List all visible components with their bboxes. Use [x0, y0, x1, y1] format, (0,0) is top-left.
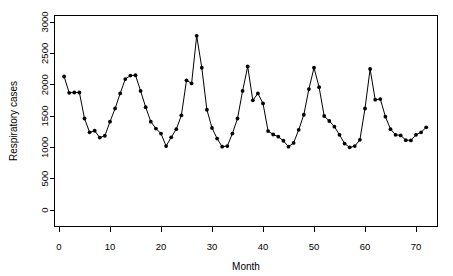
- data-point-month-5: [83, 117, 87, 121]
- data-point-month-40: [261, 102, 265, 106]
- data-point-month-25: [185, 78, 189, 82]
- data-point-month-62: [373, 98, 377, 102]
- data-point-month-3: [72, 91, 76, 95]
- data-point-month-69: [409, 139, 413, 143]
- data-point-month-49: [307, 87, 311, 91]
- y-tick-label-1500: 1500: [39, 105, 50, 126]
- data-point-month-41: [266, 129, 270, 133]
- data-point-month-54: [333, 125, 337, 129]
- chart-plot-area: 050010001500200025003000010203040506070M…: [0, 0, 453, 276]
- data-point-month-2: [67, 91, 71, 95]
- data-point-month-1: [62, 75, 66, 79]
- data-point-month-50: [312, 66, 316, 70]
- data-point-month-34: [231, 132, 235, 136]
- data-point-month-21: [164, 144, 168, 148]
- data-point-month-65: [389, 127, 393, 131]
- data-point-month-45: [287, 145, 291, 149]
- series-markers: [62, 34, 428, 149]
- data-point-month-64: [384, 115, 388, 119]
- data-point-month-66: [394, 133, 398, 137]
- y-tick-label-2000: 2000: [39, 74, 50, 95]
- data-point-month-17: [144, 105, 148, 109]
- data-point-month-22: [169, 135, 173, 139]
- series-line-respiratory-cases: [64, 36, 426, 148]
- data-point-month-37: [246, 65, 250, 69]
- data-point-month-63: [378, 97, 382, 101]
- data-point-month-46: [292, 141, 296, 145]
- y-tick-label-0: 0: [39, 207, 50, 212]
- data-point-month-10: [108, 120, 112, 124]
- data-point-month-71: [419, 130, 423, 134]
- data-point-month-61: [368, 67, 372, 71]
- x-tick-label-30: 30: [207, 241, 218, 252]
- data-point-month-7: [93, 129, 97, 133]
- data-point-month-57: [348, 145, 352, 149]
- data-point-month-13: [123, 77, 127, 81]
- data-point-month-68: [404, 138, 408, 142]
- data-point-month-14: [129, 74, 133, 78]
- data-point-month-48: [302, 113, 306, 117]
- x-axis-title: Month: [232, 261, 260, 272]
- data-point-month-23: [174, 127, 178, 131]
- x-tick-label-10: 10: [105, 241, 116, 252]
- x-tick-label-0: 0: [56, 241, 61, 252]
- data-point-month-44: [282, 139, 286, 143]
- x-tick-label-20: 20: [156, 241, 167, 252]
- data-point-month-29: [205, 108, 209, 112]
- data-point-month-58: [353, 144, 357, 148]
- data-point-month-60: [363, 107, 367, 111]
- data-point-month-43: [276, 135, 280, 139]
- data-point-month-19: [154, 127, 158, 131]
- data-point-month-51: [317, 85, 321, 89]
- x-tick-label-40: 40: [258, 241, 269, 252]
- plot-box-frame: [55, 16, 438, 227]
- data-point-month-47: [297, 128, 301, 132]
- respiratory-cases-chart: 050010001500200025003000010203040506070M…: [0, 0, 453, 276]
- data-point-month-26: [190, 82, 194, 86]
- data-point-month-56: [343, 142, 347, 146]
- data-point-month-53: [327, 119, 331, 123]
- data-point-month-52: [322, 114, 326, 118]
- y-tick-label-1000: 1000: [39, 137, 50, 158]
- data-point-month-11: [113, 107, 117, 111]
- data-point-month-31: [215, 137, 219, 141]
- data-point-month-55: [338, 133, 342, 137]
- y-tick-label-500: 500: [39, 171, 50, 187]
- data-point-month-67: [399, 134, 403, 138]
- data-point-month-59: [358, 138, 362, 142]
- data-point-month-27: [195, 34, 199, 38]
- data-point-month-28: [200, 66, 204, 70]
- data-point-month-35: [236, 117, 240, 121]
- data-point-month-42: [271, 133, 275, 137]
- x-tick-label-70: 70: [411, 241, 422, 252]
- data-point-month-38: [251, 98, 255, 102]
- data-point-month-8: [98, 136, 102, 140]
- y-tick-label-2500: 2500: [39, 43, 50, 64]
- data-point-month-15: [134, 73, 138, 77]
- x-tick-label-60: 60: [360, 241, 371, 252]
- data-point-month-12: [118, 92, 122, 96]
- data-point-month-30: [210, 126, 214, 130]
- data-point-month-20: [159, 132, 163, 136]
- data-point-month-9: [103, 134, 107, 138]
- data-point-month-33: [225, 144, 229, 148]
- data-point-month-39: [256, 92, 260, 96]
- data-point-month-18: [149, 120, 153, 124]
- data-point-month-4: [78, 91, 82, 95]
- data-point-month-24: [180, 113, 184, 117]
- data-point-month-36: [241, 89, 245, 93]
- data-point-month-70: [414, 133, 418, 137]
- y-tick-label-3000: 3000: [39, 11, 50, 32]
- x-tick-label-50: 50: [309, 241, 320, 252]
- data-point-month-32: [220, 145, 224, 149]
- data-point-month-72: [424, 125, 428, 129]
- y-axis-title: Respiratory cases: [8, 81, 19, 161]
- data-point-month-16: [139, 89, 143, 93]
- data-point-month-6: [88, 130, 92, 134]
